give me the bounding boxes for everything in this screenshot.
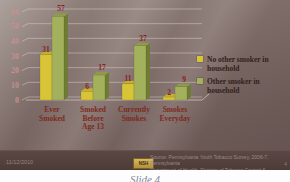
bar-value-label: 11 [124, 74, 131, 83]
legend-item: No other smoker in household [197, 55, 289, 73]
x-axis-category-label: EverSmoked [39, 105, 66, 123]
bar [40, 55, 52, 100]
gridline [22, 9, 202, 12]
slide-photo: 01020304050603157EverSmoked617SmokedBefo… [0, 0, 290, 170]
bar-side-face [105, 72, 109, 100]
bar-side-face [146, 43, 150, 100]
y-axis-tick-label: 50 [11, 22, 19, 31]
bar-value-label: 9 [182, 75, 186, 84]
bar-value-label: 37 [139, 34, 147, 43]
bar [52, 16, 64, 100]
bar-value-label: 2 [167, 88, 171, 97]
gridline [22, 38, 202, 41]
bar-side-face [64, 13, 68, 100]
bar-value-label: 57 [57, 4, 65, 13]
bar [175, 87, 187, 100]
bar [134, 46, 146, 100]
slide-date: 11/12/2010 [6, 159, 33, 165]
bar [93, 75, 105, 100]
slide-caption: Slide 4 [0, 173, 290, 182]
source-text: Source: Pennsylvania Youth Tobacco Surve… [150, 154, 280, 170]
x-axis-category-label: SmokedBeforeAge 13 [80, 105, 107, 131]
y-axis-tick-label: 30 [11, 52, 19, 61]
y-axis-tick-label: 60 [11, 8, 19, 17]
bar [122, 84, 134, 100]
legend-label: No other smoker in household [207, 55, 289, 73]
y-axis-tick-label: 40 [11, 37, 19, 46]
y-axis-tick-label: 10 [11, 81, 19, 90]
bar [81, 91, 93, 100]
gridline [22, 24, 202, 27]
legend-marker-icon [197, 56, 203, 62]
y-axis-tick-label: 20 [11, 66, 19, 75]
legend-marker-icon [197, 78, 203, 84]
x-axis-category-label: SmokesEveryday [160, 105, 191, 123]
chart-legend: No other smoker in householdOther smoker… [197, 55, 289, 95]
page-number: 4 [284, 161, 287, 167]
x-axis-category-label: CurrentlySmokes [118, 105, 150, 123]
bar-value-label: 31 [42, 45, 50, 54]
slide-footer: 11/12/2010 NSH Source: Pennsylvania Yout… [0, 150, 290, 170]
bar [163, 97, 175, 100]
bar-value-label: 17 [98, 63, 106, 72]
legend-label: Other smoker in household [207, 77, 289, 95]
bar-value-label: 6 [85, 82, 89, 91]
legend-item: Other smoker in household [197, 77, 289, 95]
y-axis-tick-label: 0 [15, 96, 19, 105]
source-line-1: Source: Pennsylvania Youth Tobacco Surve… [150, 154, 269, 166]
